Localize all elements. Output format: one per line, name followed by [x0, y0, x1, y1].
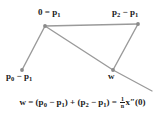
formula-equals-2: =	[110, 97, 120, 107]
label-origin-p1: 0 = p1	[38, 8, 60, 17]
formula-term1-open: (p	[36, 97, 44, 107]
vertex-p2-minus-p1-dot	[136, 22, 140, 26]
label-w: w	[108, 72, 115, 81]
label-p0-operator: − p	[14, 71, 29, 81]
label-w-text: w	[108, 71, 115, 81]
right-edge-line	[113, 24, 138, 70]
label-origin-subscript: 1	[57, 11, 60, 18]
formula-term2-sub1: 2	[85, 101, 88, 108]
label-p0-minus-p1: p0 − p1	[6, 72, 32, 81]
label-origin-text: 0 = p	[38, 7, 57, 17]
extension-ray-line	[113, 70, 152, 91]
diagonal-line	[45, 26, 113, 70]
formula-term2-minus: − p	[89, 97, 104, 107]
diagram-vertices	[20, 22, 140, 72]
formula-term1-minus: − p	[47, 97, 62, 107]
vertex-p1-origin-dot	[43, 24, 47, 28]
label-p2-subscript-2: 1	[135, 11, 138, 18]
formula-line: w = (p0 − p1) + (p2 − p1) = 1nx″(0)	[0, 96, 165, 110]
formula-fraction: 1n	[120, 96, 125, 110]
formula-equals: =	[26, 97, 36, 107]
formula-term2-sub2: 1	[103, 101, 106, 108]
vector-geometry-figure: 0 = p1 p2 − p1 p0 − p1 w w = (p0 − p1) +…	[0, 0, 165, 117]
diagram-lines	[22, 24, 152, 91]
formula-fraction-denominator: n	[120, 102, 125, 109]
formula-term1-sub1: 0	[44, 101, 47, 108]
label-p2-subscript-1: 2	[117, 11, 120, 18]
left-edge-line	[22, 26, 45, 70]
formula-rhs-arg: (0)	[135, 97, 146, 107]
label-p2-operator: − p	[120, 7, 135, 17]
label-p0-subscript-1: 0	[11, 75, 14, 82]
label-p0-subscript-2: 1	[29, 75, 32, 82]
formula-term1-sub2: 1	[62, 101, 65, 108]
formula-plus: +	[68, 97, 78, 107]
top-edge-line	[45, 24, 138, 26]
label-p2-minus-p1: p2 − p1	[112, 8, 138, 17]
